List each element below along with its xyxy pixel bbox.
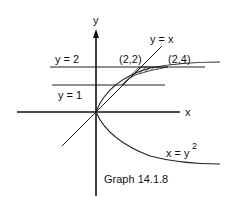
- graph-figure: x y y = 2 y = 1 y = x x = y 2 (2,2) (2,4…: [0, 0, 236, 198]
- label-curve-exponent: 2: [192, 141, 197, 151]
- curve-x-equals-y-squared: [96, 62, 220, 112]
- y-axis-label: y: [93, 14, 99, 26]
- label-y-equals-1: y = 1: [58, 89, 82, 101]
- label-y-equals-x: y = x: [150, 33, 174, 45]
- point-label-2-4: (2,4): [168, 53, 191, 65]
- label-curve-base: x = y: [166, 147, 190, 159]
- x-axis-label: x: [185, 106, 191, 118]
- point-label-2-2: (2,2): [119, 53, 142, 65]
- y-axis-arrow-icon: [93, 29, 99, 38]
- curve-x-equals-y-squared-lower: [96, 112, 220, 164]
- label-curve: x = y: [166, 147, 190, 159]
- figure-caption: Graph 14.1.8: [104, 173, 168, 185]
- label-y-equals-2: y = 2: [55, 53, 79, 65]
